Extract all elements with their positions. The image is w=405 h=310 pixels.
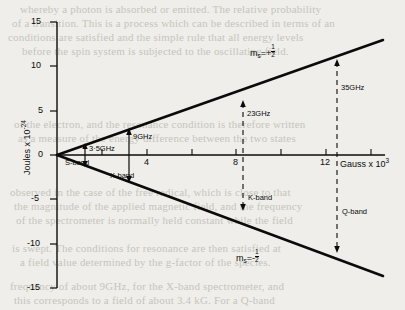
band-label-k-band: K-band [248, 194, 272, 202]
frequency-label-x-band: 9GHz [133, 133, 152, 141]
band-label-s-band: S-band [65, 159, 89, 167]
fraction-numerator: 1 [271, 44, 275, 51]
x-tick-label-8: 8 [233, 158, 238, 167]
series-label-operator: =+ [261, 48, 272, 58]
band-label-q-band: Q-band [342, 208, 367, 216]
x-tick-label-12: 12 [320, 158, 330, 167]
plot-area [0, 0, 405, 310]
x-tick-label-4: 4 [144, 158, 149, 167]
frequency-label-k-band: 23GHz [247, 110, 270, 118]
energy-line-ms-minus-half [57, 155, 383, 276]
fraction-denominator: 2 [255, 256, 259, 264]
y-tick-label-15: 15 [31, 17, 41, 26]
y-tick-label-0: 0 [38, 150, 43, 159]
series-label-ms-plus-half: ms=+12 [250, 44, 275, 60]
series-label-operator: =- [247, 253, 255, 263]
band-label-x-band: X-band [110, 172, 134, 180]
energy-line-ms-plus-half [57, 40, 383, 155]
y-tick-label-5: 5 [38, 106, 43, 115]
series-label-ms-minus-half: ms=-12 [236, 249, 259, 265]
x-axis-label-exponent: 3 [386, 157, 390, 164]
y-tick-label-minus15: -15 [27, 283, 40, 292]
y-tick-label-minus10: -10 [27, 239, 40, 248]
y-axis-label: Joules x 10-24 [20, 120, 32, 175]
series-label-fraction: 12 [271, 44, 275, 58]
zeeman-splitting-chart: 15 10 5 0 -5 -10 -15 4 8 12 Joules x 10-… [0, 0, 405, 310]
frequency-label-q-band: 35GHz [341, 84, 364, 92]
y-tick-label-10: 10 [31, 61, 41, 70]
series-label-m: m [250, 48, 258, 58]
y-tick-label-minus5: -5 [31, 194, 39, 203]
frequency-label-s-band: 3·5GHz [89, 145, 115, 153]
fraction-numerator: 1 [255, 249, 259, 256]
y-axis-label-text: Joules x 10 [22, 129, 32, 175]
series-label-m: m [236, 253, 244, 263]
x-axis-label: Gauss x 103 [340, 158, 389, 169]
x-axis-label-text: Gauss x 10 [340, 159, 386, 169]
y-axis-label-exponent: -24 [20, 120, 27, 129]
figure-canvas: whereby a photon is absorbed or emitted.… [0, 0, 405, 310]
series-label-fraction: 12 [255, 249, 259, 263]
transition-arrow-q-band [334, 59, 340, 253]
fraction-denominator: 2 [271, 51, 275, 59]
